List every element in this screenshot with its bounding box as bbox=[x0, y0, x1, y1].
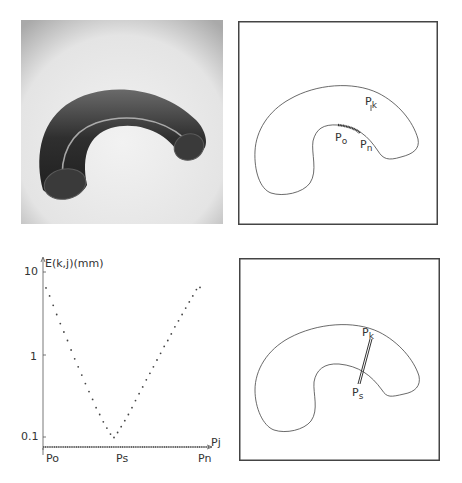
x-axis-label: Pj bbox=[211, 436, 221, 449]
data-point bbox=[49, 295, 51, 297]
data-point bbox=[199, 287, 201, 289]
data-point bbox=[160, 352, 162, 354]
data-point bbox=[110, 433, 112, 435]
ytick-10: 10 bbox=[24, 265, 38, 278]
data-point bbox=[63, 331, 65, 333]
data-points bbox=[45, 287, 201, 439]
data-point bbox=[156, 359, 158, 361]
data-point bbox=[45, 287, 47, 289]
data-point bbox=[106, 427, 108, 429]
data-point bbox=[178, 320, 180, 322]
data-point bbox=[167, 340, 169, 342]
data-point bbox=[185, 307, 187, 309]
data-point bbox=[52, 304, 54, 306]
data-point bbox=[120, 426, 122, 428]
data-point bbox=[135, 400, 137, 402]
data-point bbox=[88, 391, 90, 393]
data-point bbox=[192, 295, 194, 297]
error-graph: 10 1 0.1 E(k,j)(mm) Pj Po Ps Pn bbox=[0, 245, 231, 483]
data-point bbox=[181, 314, 183, 316]
data-point bbox=[59, 323, 61, 325]
data-point bbox=[102, 421, 104, 423]
panel-frame bbox=[239, 22, 438, 225]
data-point bbox=[99, 414, 101, 416]
data-point bbox=[124, 420, 126, 422]
data-point bbox=[95, 407, 97, 409]
data-point bbox=[170, 333, 172, 335]
data-point bbox=[77, 366, 79, 368]
data-point bbox=[67, 340, 69, 342]
data-point bbox=[149, 372, 151, 374]
data-point bbox=[138, 393, 140, 395]
xtick-po: Po bbox=[46, 452, 59, 465]
data-point bbox=[145, 379, 147, 381]
data-point bbox=[196, 289, 198, 291]
ytick-0-1: 0.1 bbox=[21, 430, 39, 443]
contour-panel-bottom: Pk Ps bbox=[239, 258, 440, 461]
data-point bbox=[117, 432, 119, 434]
data-point bbox=[113, 437, 115, 439]
data-point bbox=[174, 326, 176, 328]
xtick-pn: Pn bbox=[198, 452, 211, 465]
data-point bbox=[163, 346, 165, 348]
ytick-1: 1 bbox=[30, 350, 37, 363]
data-point bbox=[188, 301, 190, 303]
data-point bbox=[142, 386, 144, 388]
data-point bbox=[92, 399, 94, 401]
data-point bbox=[56, 314, 58, 316]
y-axis-label: E(k,j)(mm) bbox=[45, 257, 103, 270]
data-point bbox=[70, 349, 72, 351]
data-point bbox=[127, 414, 129, 416]
xtick-ps: Ps bbox=[116, 452, 128, 465]
data-point bbox=[153, 366, 155, 368]
data-point bbox=[74, 358, 76, 360]
data-point bbox=[85, 383, 87, 385]
panel-frame bbox=[240, 259, 440, 461]
contour-panel-top: Pk Po Pn bbox=[238, 21, 438, 225]
tube-render-image bbox=[21, 20, 223, 224]
data-point bbox=[131, 407, 133, 409]
data-point bbox=[81, 374, 83, 376]
